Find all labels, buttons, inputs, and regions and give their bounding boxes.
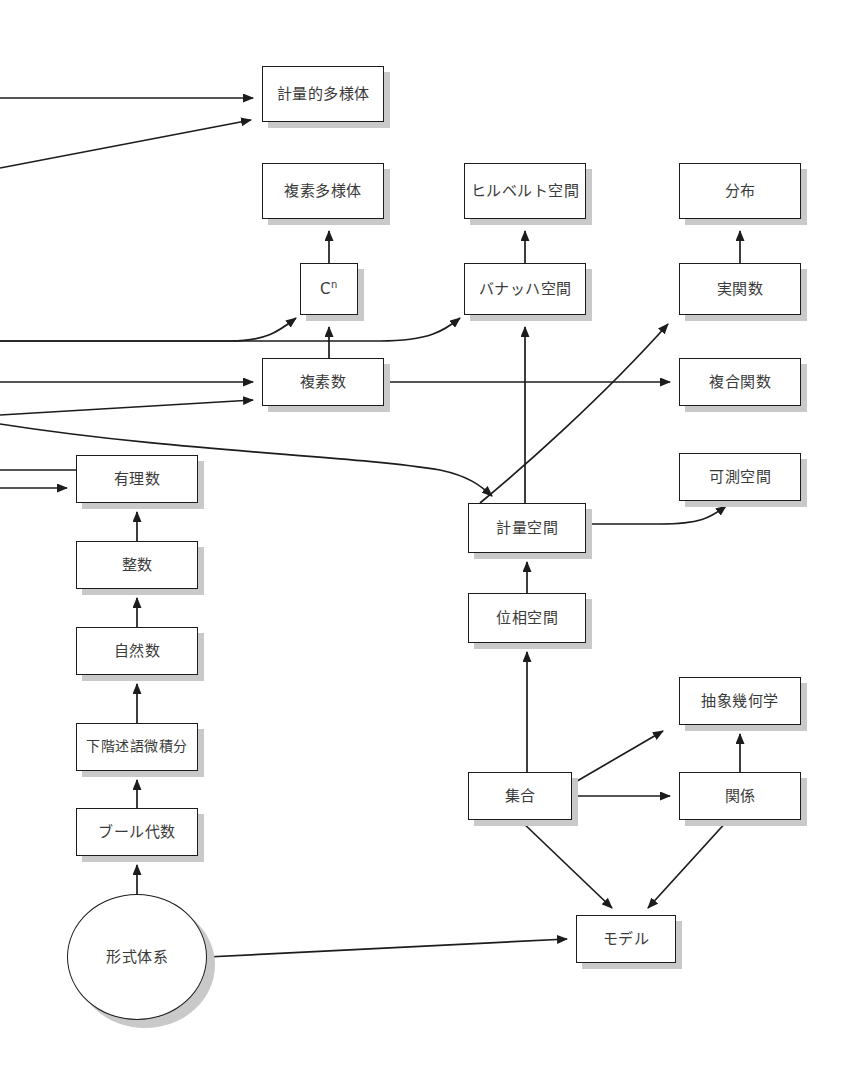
node-measurable-space[interactable]: 可測空間 (679, 453, 801, 501)
node-label: 下階述語微積分 (86, 739, 188, 754)
node-label: 複素多様体 (284, 183, 362, 200)
node-label: 有理数 (114, 471, 161, 488)
node-label: 位相空間 (496, 610, 558, 627)
node-label: 複合関数 (709, 374, 771, 391)
edge-set-to-model (520, 820, 612, 908)
node-label: Cn (320, 281, 338, 298)
node-label: 分布 (725, 183, 756, 200)
node-metric-manifold[interactable]: 計量的多様体 (262, 66, 384, 122)
edge-relation-to-model (648, 820, 728, 908)
node-label: 計量的多様体 (277, 86, 370, 103)
node-label: 実関数 (717, 281, 764, 298)
node-label: 計量空間 (496, 520, 558, 537)
node-label: 集合 (505, 788, 536, 805)
node-banach-space[interactable]: バナッハ空間 (464, 263, 586, 315)
edge-offscreen-to-complex-number-2 (0, 400, 253, 415)
node-natural-number[interactable]: 自然数 (76, 627, 198, 675)
edge-set-to-abstract-geometry (572, 731, 663, 784)
node-label: バナッハ空間 (479, 281, 572, 298)
node-boolean-algebra[interactable]: ブール代数 (76, 808, 198, 856)
node-composite-function[interactable]: 複合関数 (679, 358, 801, 406)
node-label: 関係 (725, 788, 756, 805)
node-relation[interactable]: 関係 (679, 772, 801, 820)
node-label: 抽象幾何学 (701, 693, 779, 710)
edge-offscreen-to-metric-space (0, 424, 492, 496)
node-abstract-geometry[interactable]: 抽象幾何学 (679, 677, 801, 725)
node-topological-space[interactable]: 位相空間 (468, 593, 586, 643)
node-label: 形式体系 (106, 949, 168, 966)
node-integer[interactable]: 整数 (76, 541, 198, 589)
node-rational-number[interactable]: 有理数 (76, 455, 198, 503)
node-label: 可測空間 (709, 469, 771, 486)
edge-formal-system-to-model (207, 939, 567, 957)
node-formal-system[interactable]: 形式体系 (67, 894, 207, 1020)
node-distribution[interactable]: 分布 (679, 163, 801, 219)
node-label: 整数 (122, 557, 153, 574)
node-complex-manifold[interactable]: 複素多様体 (262, 163, 384, 219)
node-hilbert-space[interactable]: ヒルベルト空間 (464, 163, 586, 219)
node-label: ヒルベルト空間 (471, 183, 580, 200)
node-metric-space[interactable]: 計量空間 (468, 503, 586, 553)
node-label: 自然数 (114, 643, 161, 660)
diagram-canvas: 計量的多様体 複素多様体 ヒルベルト空間 分布 Cn バナッハ空間 実関数 複素… (0, 0, 865, 1071)
edge-offscreen-to-metric-manifold-2 (0, 120, 251, 168)
node-label: ブール代数 (98, 824, 176, 841)
edge-metric-space-to-measurable-space (586, 506, 726, 524)
node-label-superscript: n (331, 279, 338, 290)
edge-metric-space-to-real-function (480, 324, 668, 503)
node-real-function[interactable]: 実関数 (679, 263, 801, 315)
node-set[interactable]: 集合 (468, 772, 572, 820)
node-model[interactable]: モデル (576, 915, 676, 963)
node-cn[interactable]: Cn (300, 263, 358, 315)
node-label: 複素数 (300, 374, 347, 391)
node-predicate-calculus[interactable]: 下階述語微積分 (76, 723, 198, 771)
node-complex-number[interactable]: 複素数 (262, 358, 384, 406)
node-label: モデル (603, 931, 650, 948)
edge-offscreen-to-banach (0, 318, 460, 341)
edge-offscreen-to-cn (0, 318, 296, 341)
